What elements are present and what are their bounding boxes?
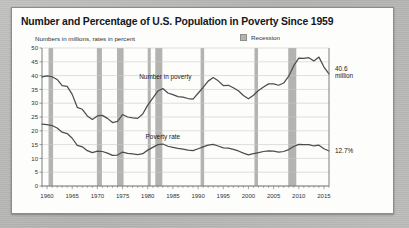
- x-tick-label: 2015: [317, 193, 331, 199]
- y-tick-label: 30: [31, 100, 38, 106]
- x-tick-label: 1995: [217, 193, 231, 199]
- page-title: Number and Percentage of U.S. Population…: [21, 16, 333, 27]
- plot-area: 05101520253035404550 1960196519701975198…: [21, 42, 386, 208]
- x-tick-label: 1970: [91, 193, 105, 199]
- x-tick-label: 1980: [141, 193, 155, 199]
- figure-card: Number and Percentage of U.S. Population…: [11, 7, 394, 214]
- x-tick-label: 2010: [292, 193, 306, 199]
- series-group: [42, 57, 329, 155]
- x-tick-label: 1960: [40, 193, 54, 199]
- legend-item-recession: Recession: [251, 34, 280, 41]
- y-tick-label: 40: [31, 73, 38, 79]
- gridlines-group: [42, 48, 329, 186]
- annotation-number-value: 40.6: [335, 65, 348, 72]
- series-line-poverty-rate: [42, 124, 329, 155]
- y-tick-label: 50: [31, 45, 38, 51]
- y-tick-label: 0: [35, 183, 39, 189]
- series-label-poverty-rate: Poverty rate: [146, 133, 181, 141]
- x-tick-label: 1985: [166, 193, 180, 199]
- y-tick-label: 15: [31, 142, 38, 148]
- x-tick-label: 2000: [242, 193, 256, 199]
- y-tick-label: 35: [31, 87, 38, 93]
- chart-legend: Recession: [240, 34, 280, 41]
- y-tick-label: 25: [31, 114, 38, 120]
- annotation-number-unit: million: [335, 72, 354, 79]
- chart-subtitle: Numbers in millions, rates in percent: [35, 35, 135, 42]
- annotation-rate-value: 12.7%: [335, 147, 353, 154]
- line-chart-svg: 05101520253035404550 1960196519701975198…: [21, 42, 386, 208]
- x-axis: 1960196519701975198019851990199520002005…: [40, 186, 331, 199]
- x-tick-label: 1965: [66, 193, 80, 199]
- end-annotations: 40.6million12.7%: [329, 48, 354, 186]
- x-tick-label: 1975: [116, 193, 130, 199]
- y-axis: 05101520253035404550: [31, 45, 42, 189]
- x-tick-label: 2005: [267, 193, 281, 199]
- y-tick-label: 20: [31, 128, 38, 134]
- y-tick-label: 45: [31, 59, 38, 65]
- recession-swatch-icon: [240, 34, 247, 41]
- series-label-number-in-poverty: Number in poverty: [139, 73, 192, 81]
- y-tick-label: 5: [35, 169, 39, 175]
- y-tick-label: 10: [31, 156, 38, 162]
- series-line-number-in-poverty: [42, 57, 329, 122]
- x-tick-label: 1990: [191, 193, 205, 199]
